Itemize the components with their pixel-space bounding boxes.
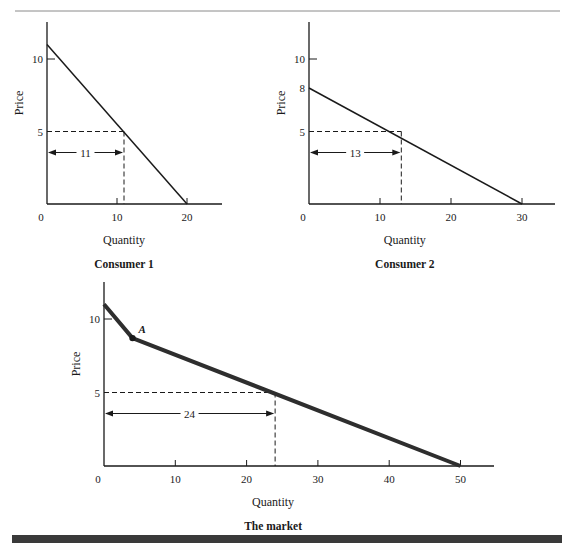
quantity-dimension-label: 11 [80,147,91,159]
consumer-2-chart: 01020305810PriceQuantityConsumer 213 [274,22,555,270]
market-chart: 01020304050510PriceQuantityThe market24A [69,282,494,532]
arrowhead-right-icon [392,150,400,156]
demand-curves-figure: 01020510PriceQuantityConsumer 111 010203… [0,0,565,543]
chart-caption: Consumer 2 [375,258,435,270]
arrowhead-left-icon [105,411,113,417]
demand-curve [47,45,187,205]
x-tick-label: 30 [312,473,324,485]
x-tick-label: 0 [38,211,44,223]
y-tick-label: 5 [95,387,101,399]
demand-curve [309,88,522,204]
arrowhead-left-icon [310,150,318,156]
y-axis-title: Price [12,91,26,116]
x-tick-label: 10 [112,211,124,223]
arrowhead-right-icon [266,411,274,417]
x-tick-label: 10 [375,211,387,223]
figure: 01020510PriceQuantityConsumer 111 010203… [0,0,565,543]
x-tick-label: 40 [384,473,396,485]
quantity-dimension-label: 24 [184,408,196,420]
chart-caption: The market [244,520,302,532]
arrowhead-left-icon [48,150,56,156]
demand-curve [104,304,461,466]
x-tick-label: 0 [95,473,101,485]
y-axis-title: Price [69,352,83,377]
x-axis-title: Quantity [252,495,294,509]
x-tick-label: 20 [446,211,458,223]
y-tick-label: 10 [294,53,306,65]
consumer-1-chart: 01020510PriceQuantityConsumer 111 [12,22,222,270]
y-tick-label: 8 [300,82,306,94]
chart-caption: Consumer 1 [94,258,154,270]
y-tick-label: 5 [300,126,306,138]
x-tick-label: 50 [455,473,467,485]
kink-point-label: A [138,323,146,335]
y-tick-label: 10 [32,53,44,65]
x-axis-title: Quantity [384,233,426,247]
bottom-bar [12,535,562,543]
x-tick-label: 0 [300,211,306,223]
y-tick-label: 5 [38,126,44,138]
y-tick-label: 10 [89,313,101,325]
x-axis-title: Quantity [103,233,145,247]
y-axis-title: Price [274,91,288,116]
arrowhead-right-icon [115,150,123,156]
quantity-dimension-label: 13 [350,147,362,159]
x-tick-label: 20 [182,211,194,223]
kink-point-marker [129,335,135,341]
x-tick-label: 20 [241,473,253,485]
x-tick-label: 10 [170,473,182,485]
x-tick-label: 30 [517,211,529,223]
